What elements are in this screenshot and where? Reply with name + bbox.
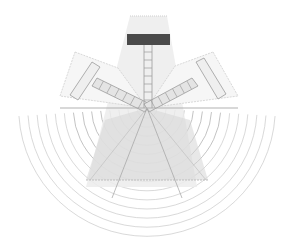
central-stage-block	[127, 34, 170, 45]
fan-layout-diagram	[0, 0, 288, 250]
